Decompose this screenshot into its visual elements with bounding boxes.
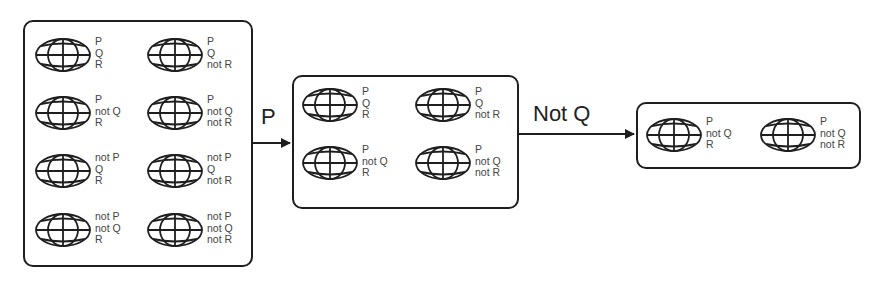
world-label-line: R xyxy=(95,117,121,129)
globe-icon xyxy=(146,153,204,189)
globe-icon xyxy=(34,212,92,248)
world-all-worlds-3: Pnot Qnot R xyxy=(146,95,233,131)
globe-icon xyxy=(645,117,703,153)
world-label-line: not P xyxy=(207,211,233,223)
globe-icon xyxy=(414,145,472,181)
globe-icon xyxy=(414,87,472,123)
world-label-line: P xyxy=(706,116,732,128)
arrow-label-p: P xyxy=(261,104,276,130)
world-label-line: not R xyxy=(207,175,232,187)
globe-icon xyxy=(301,87,359,123)
world-label-line: R xyxy=(362,167,388,179)
globe-icon xyxy=(34,37,92,73)
world-labels: not PQnot R xyxy=(207,152,232,187)
world-after-not-q-1: Pnot Qnot R xyxy=(759,117,846,153)
world-label-line: P xyxy=(362,86,370,98)
world-labels: Pnot Qnot R xyxy=(820,116,846,151)
arrow-label-not-q: Not Q xyxy=(533,101,590,127)
world-label-line: P xyxy=(820,116,846,128)
world-labels: not Pnot Qnot R xyxy=(207,211,233,246)
globe-icon xyxy=(34,153,92,189)
world-label-line: not R xyxy=(820,139,846,151)
world-label-line: R xyxy=(95,175,120,187)
world-after-not-q-0: Pnot QR xyxy=(645,117,732,153)
globe-icon xyxy=(146,37,204,73)
world-labels: Pnot QR xyxy=(95,94,121,129)
globe-icon xyxy=(301,145,359,181)
world-labels: PQnot R xyxy=(207,36,232,71)
world-labels: PQnot R xyxy=(475,86,500,121)
globe-icon xyxy=(759,117,817,153)
world-label-line: P xyxy=(362,144,388,156)
world-all-worlds-1: PQnot R xyxy=(146,37,232,73)
world-label-line: not P xyxy=(95,211,121,223)
world-label-line: not R xyxy=(207,59,232,71)
world-label-line: not P xyxy=(207,152,232,164)
world-all-worlds-4: not PQR xyxy=(34,153,120,189)
world-labels: PQR xyxy=(95,36,103,71)
world-label-line: P xyxy=(95,94,121,106)
world-all-worlds-2: Pnot QR xyxy=(34,95,121,131)
world-after-p-1: PQnot R xyxy=(414,87,500,123)
world-label-line: P xyxy=(475,144,501,156)
world-label-line: R xyxy=(362,109,370,121)
world-label-line: not R xyxy=(207,234,233,246)
world-label-line: R xyxy=(706,139,732,151)
globe-icon xyxy=(146,212,204,248)
globe-icon xyxy=(146,95,204,131)
world-label-line: P xyxy=(95,36,103,48)
world-labels: not Pnot QR xyxy=(95,211,121,246)
world-label-line: not R xyxy=(475,109,500,121)
world-label-line: not R xyxy=(207,117,233,129)
world-label-line: P xyxy=(207,94,233,106)
world-all-worlds-5: not PQnot R xyxy=(146,153,232,189)
world-labels: Pnot Qnot R xyxy=(207,94,233,129)
world-all-worlds-7: not Pnot Qnot R xyxy=(146,212,233,248)
world-label-line: R xyxy=(95,234,121,246)
world-labels: Pnot QR xyxy=(362,144,388,179)
world-label-line: not R xyxy=(475,167,501,179)
world-all-worlds-0: PQR xyxy=(34,37,103,73)
world-labels: PQR xyxy=(362,86,370,121)
world-after-p-3: Pnot Qnot R xyxy=(414,145,501,181)
world-after-p-0: PQR xyxy=(301,87,370,123)
world-after-p-2: Pnot QR xyxy=(301,145,388,181)
world-labels: not PQR xyxy=(95,152,120,187)
world-labels: Pnot QR xyxy=(706,116,732,151)
world-label-line: P xyxy=(207,36,232,48)
globe-icon xyxy=(34,95,92,131)
world-all-worlds-6: not Pnot QR xyxy=(34,212,121,248)
world-labels: Pnot Qnot R xyxy=(475,144,501,179)
world-label-line: P xyxy=(475,86,500,98)
world-label-line: R xyxy=(95,59,103,71)
world-label-line: not P xyxy=(95,152,120,164)
